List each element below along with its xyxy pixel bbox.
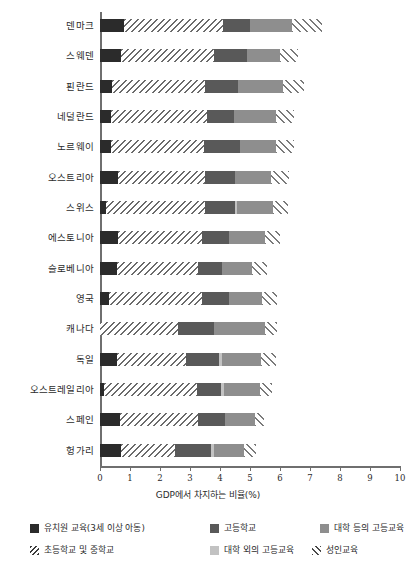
bar-segment-kinder	[100, 80, 112, 93]
bar-segment-kinder	[100, 231, 118, 244]
x-tick-label: 9	[360, 473, 380, 483]
bar-segment-uni	[224, 383, 260, 396]
x-tick	[400, 466, 401, 471]
x-tick-label: 1	[120, 473, 140, 483]
bar-segment-adult	[261, 353, 276, 366]
legend-label: 대학 외의 고등교육	[224, 546, 294, 555]
bar-segment-uni	[229, 231, 265, 244]
category-label: 오스트레일리아	[4, 382, 94, 396]
bar-segment-uni	[225, 413, 255, 426]
bar-segment-primary	[104, 383, 197, 396]
x-tick-label: 5	[240, 473, 260, 483]
legend-label: 유치원 교육(3세 이상 아동)	[44, 524, 145, 533]
bar-segment-adult	[260, 383, 272, 396]
bar-segment-highschool	[205, 201, 235, 214]
bar-segment-kinder	[100, 171, 118, 184]
legend-item-nonuni[interactable]: 대학 외의 고등교육	[210, 546, 294, 555]
bar-segment-primary	[117, 262, 198, 275]
legend-swatch-nonuni-icon	[210, 546, 219, 555]
bar-segment-uni	[234, 110, 276, 123]
legend-item-kinder[interactable]: 유치원 교육(3세 이상 아동)	[30, 524, 145, 533]
x-tick-label: 10	[390, 473, 410, 483]
x-tick	[190, 466, 191, 471]
x-tick	[310, 466, 311, 471]
category-label: 에스토니아	[4, 230, 94, 244]
legend-item-uni[interactable]: 대학 등의 고등교육	[320, 524, 404, 533]
legend-swatch-uni-icon	[320, 524, 329, 533]
bar-segment-uni	[237, 201, 273, 214]
bar-segment-primary	[106, 201, 205, 214]
bar-segment-primary	[120, 413, 198, 426]
x-tick-label: 2	[150, 473, 170, 483]
bar-segment-primary	[111, 140, 204, 153]
category-label: 스웨덴	[4, 48, 94, 62]
category-label: 스페인	[4, 412, 94, 426]
bar-segment-kinder	[100, 444, 121, 457]
bar-segment-adult	[273, 201, 288, 214]
bar-segment-adult	[292, 19, 322, 32]
bar-segment-uni	[214, 444, 244, 457]
category-label: 노르웨이	[4, 139, 94, 153]
bar-segment-uni	[235, 171, 271, 184]
bar-segment-kinder	[100, 49, 121, 62]
legend-swatch-kinder-icon	[30, 524, 39, 533]
category-label: 독일	[4, 352, 94, 366]
chart-row: 네덜란드	[100, 103, 400, 133]
chart-row: 독일	[100, 346, 400, 376]
chart-row: 에스토니아	[100, 224, 400, 254]
bar-segment-highschool	[214, 49, 247, 62]
bar-segment-highschool	[197, 383, 221, 396]
x-tick-label: 4	[210, 473, 230, 483]
bar-segment-uni	[250, 19, 292, 32]
bar-segment-primary	[111, 110, 207, 123]
chart-row: 오스트레일리아	[100, 376, 400, 406]
legend-label: 고등학교	[224, 524, 256, 533]
category-label: 슬로베니아	[4, 261, 94, 275]
bar-segment-adult	[252, 262, 267, 275]
category-label: 덴마크	[4, 18, 94, 32]
category-label: 캐나다	[4, 321, 94, 335]
category-label: 오스트리아	[4, 170, 94, 184]
bar-segment-uni	[222, 353, 261, 366]
bar-segment-uni	[247, 49, 280, 62]
x-tick-label: 0	[90, 473, 110, 483]
bar-segment-kinder	[100, 353, 117, 366]
bar-segment-highschool	[202, 292, 229, 305]
x-tick-label: 8	[330, 473, 350, 483]
bar-segment-primary	[117, 353, 186, 366]
bar-segment-kinder	[100, 19, 124, 32]
x-tick-label: 3	[180, 473, 200, 483]
bar-segment-primary	[118, 231, 202, 244]
x-tick	[100, 466, 101, 471]
legend-label: 성인교육	[326, 546, 358, 555]
legend-swatch-primary-icon	[30, 546, 39, 555]
legend-item-primary[interactable]: 초등학교 및 중학교	[30, 546, 114, 555]
chart-row: 오스트리아	[100, 164, 400, 194]
bar-segment-uni	[214, 322, 265, 335]
bar-segment-highschool	[202, 231, 229, 244]
bar-segment-adult	[276, 140, 294, 153]
bar-segment-primary	[124, 19, 223, 32]
bar-segment-adult	[262, 292, 277, 305]
x-tick	[130, 466, 131, 471]
bar-segment-uni	[238, 80, 283, 93]
chart-root: 덴마크스웨덴핀란드네덜란드노르웨이오스트리아스위스에스토니아슬로베니아영국캐나다…	[0, 0, 416, 580]
bar-segment-highschool	[204, 140, 240, 153]
x-axis-title: GDP에서 차지하는 비율(%)	[0, 488, 416, 501]
x-tick-label: 6	[270, 473, 290, 483]
bar-segment-adult	[265, 231, 280, 244]
x-tick	[280, 466, 281, 471]
legend-label: 대학 등의 고등교육	[334, 524, 404, 533]
bar-segment-uni	[240, 140, 276, 153]
chart-row: 스페인	[100, 406, 400, 436]
x-tick	[370, 466, 371, 471]
bar-segment-highschool	[186, 353, 219, 366]
bar-segment-primary	[121, 49, 214, 62]
bar-segment-adult	[283, 80, 304, 93]
chart-row: 핀란드	[100, 73, 400, 103]
legend-item-highschool[interactable]: 고등학교	[210, 524, 256, 533]
chart-row: 영국	[100, 285, 400, 315]
legend-item-adult[interactable]: 성인교육	[312, 546, 358, 555]
bar-segment-highschool	[198, 262, 222, 275]
chart-row: 스웨덴	[100, 42, 400, 72]
